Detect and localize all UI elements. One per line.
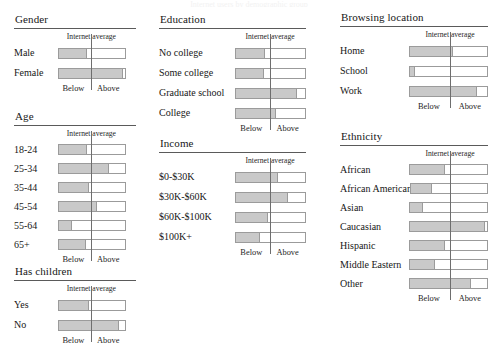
bar-row-label: 65+ xyxy=(14,239,58,251)
bar-row[interactable]: Yes xyxy=(14,295,136,315)
bar-rows: No collegeSome collegeGraduate schoolCol… xyxy=(159,32,306,123)
bar-track[interactable] xyxy=(409,164,488,175)
bar-fill xyxy=(59,321,119,330)
panel-education: Education Internet averageNo collegeSome… xyxy=(159,13,306,135)
panel-income: Income Internet average$0-$30K$30K-$60K$… xyxy=(159,137,306,259)
bar-track[interactable] xyxy=(235,68,306,79)
bar-track[interactable] xyxy=(58,182,126,193)
bar-row-label: Graduate school xyxy=(159,87,235,99)
bar-row[interactable]: 18-24 xyxy=(14,140,136,159)
axis-label-below: Below xyxy=(418,102,440,112)
bar-fill xyxy=(411,184,432,193)
bar-row[interactable]: 35-44 xyxy=(14,178,136,197)
bar-rows: MaleFemale xyxy=(14,32,136,83)
bar-row-label: $0-$30K xyxy=(159,171,235,183)
plot-education: Internet averageNo collegeSome collegeGr… xyxy=(159,32,306,135)
bar-track[interactable] xyxy=(58,300,126,311)
bar-track[interactable] xyxy=(235,108,306,119)
bar-row[interactable]: Middle Eastern xyxy=(340,255,488,274)
bar-row[interactable]: College xyxy=(159,103,306,123)
bar-row-label: No xyxy=(14,319,58,331)
bar-row[interactable]: $30K-$60K xyxy=(159,187,306,207)
bar-row[interactable]: Asian xyxy=(340,198,488,217)
bar-track[interactable] xyxy=(409,86,488,97)
bar-row[interactable]: Female xyxy=(14,63,136,83)
plot-has-children: Internet averageYesNoBelowAbove xyxy=(14,284,136,347)
panel-rule-browsing-location xyxy=(340,26,488,27)
bar-row-label: African xyxy=(340,164,409,176)
bar-track[interactable] xyxy=(58,163,126,174)
bar-row-label: School xyxy=(340,65,409,77)
bar-row[interactable]: Graduate school xyxy=(159,83,306,103)
axis-label-below: Below xyxy=(63,255,85,265)
bar-row[interactable]: $0-$30K xyxy=(159,167,306,187)
bar-row[interactable]: No xyxy=(14,315,136,335)
bar-fill xyxy=(236,89,297,98)
panel-rule-education xyxy=(159,28,306,29)
bar-row[interactable]: $60K-$100K xyxy=(159,207,306,227)
bar-row[interactable]: Hispanic xyxy=(340,236,488,255)
axis-label-below: Below xyxy=(240,248,262,258)
axis-label-below: Below xyxy=(418,294,440,304)
bar-row-label: 35-44 xyxy=(14,182,58,194)
bar-track[interactable] xyxy=(410,183,488,194)
bar-axis: BelowAbove xyxy=(340,293,488,305)
panel-title-gender: Gender xyxy=(14,13,136,26)
bar-track[interactable] xyxy=(235,232,306,243)
panel-title-browsing-location: Browsing location xyxy=(340,11,488,24)
bar-track[interactable] xyxy=(409,278,488,289)
bar-row[interactable]: 45-54 xyxy=(14,197,136,216)
bar-row-label: No college xyxy=(159,47,235,59)
panel-title-ethnicity: Ethnicity xyxy=(340,130,488,143)
bar-fill xyxy=(236,109,276,118)
bar-row[interactable]: 25-34 xyxy=(14,159,136,178)
panel-title-has-children: Has children xyxy=(14,265,136,278)
bar-row-label: $60K-$100K xyxy=(159,211,235,223)
bar-track[interactable] xyxy=(58,220,126,231)
bar-row[interactable]: No college xyxy=(159,43,306,63)
bar-axis: BelowAbove xyxy=(159,123,306,135)
panel-rule-income xyxy=(159,152,306,153)
bar-track[interactable] xyxy=(58,320,126,331)
bar-row[interactable]: African American xyxy=(340,179,488,198)
bar-row-label: $100K+ xyxy=(159,231,235,243)
axis-label-above: Above xyxy=(97,336,119,346)
bar-row[interactable]: Work xyxy=(340,81,488,101)
bar-row-label: Male xyxy=(14,47,58,59)
bar-track[interactable] xyxy=(58,68,126,79)
panel-ethnicity: Ethnicity Internet averageAfricanAfrican… xyxy=(340,130,488,305)
bar-track[interactable] xyxy=(409,46,488,57)
bar-row[interactable]: Other xyxy=(340,274,488,293)
bar-fill xyxy=(59,183,89,192)
bar-track[interactable] xyxy=(235,48,306,59)
bar-row-label: $30K-$60K xyxy=(159,191,235,203)
bar-row[interactable]: School xyxy=(340,61,488,81)
bar-track[interactable] xyxy=(235,172,306,183)
bar-row[interactable]: African xyxy=(340,160,488,179)
bar-row[interactable]: 65+ xyxy=(14,235,136,254)
bar-row[interactable]: $100K+ xyxy=(159,227,306,247)
bar-row[interactable]: Home xyxy=(340,41,488,61)
bar-rows: 18-2425-3435-4445-5455-6465+ xyxy=(14,129,136,254)
plot-browsing-location: Internet averageHomeSchoolWorkBelowAbove xyxy=(340,30,488,113)
bar-track[interactable] xyxy=(235,88,306,99)
bar-track[interactable] xyxy=(235,212,306,223)
bar-row[interactable]: 55-64 xyxy=(14,216,136,235)
bar-track[interactable] xyxy=(409,240,488,251)
bar-track[interactable] xyxy=(58,144,126,155)
bar-fill xyxy=(410,260,435,269)
bar-track[interactable] xyxy=(58,48,126,59)
bar-row[interactable]: Caucasian xyxy=(340,217,488,236)
bar-rows: HomeSchoolWork xyxy=(340,30,488,101)
bar-track[interactable] xyxy=(409,66,488,77)
bar-track[interactable] xyxy=(409,202,488,213)
bar-track[interactable] xyxy=(58,239,126,250)
bar-track[interactable] xyxy=(409,221,488,232)
bar-track[interactable] xyxy=(409,259,488,270)
bar-track[interactable] xyxy=(235,192,306,203)
bar-row[interactable]: Male xyxy=(14,43,136,63)
bar-track[interactable] xyxy=(58,201,126,212)
bar-axis: BelowAbove xyxy=(14,83,136,95)
axis-label-above: Above xyxy=(97,84,119,94)
bar-row[interactable]: Some college xyxy=(159,63,306,83)
